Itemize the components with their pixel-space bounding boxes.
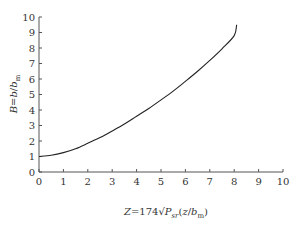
data-series	[39, 25, 237, 157]
y-axis-label: B=b/bm	[8, 74, 22, 114]
y-tick-label: 8	[29, 43, 35, 54]
x-tick-label: 10	[277, 176, 290, 187]
y-tick-label: 3	[29, 120, 35, 131]
x-tick-label: 0	[36, 176, 42, 187]
curve-line	[39, 25, 237, 157]
x-axis-label: Z=174√Psr(z/bm)	[123, 206, 208, 220]
line-chart: 012345678910012345678910 Z=174√Psr(z/bm)…	[0, 0, 302, 230]
y-tick-label: 1	[29, 151, 35, 162]
x-tick-label: 8	[231, 176, 237, 187]
x-tick-label: 4	[133, 176, 139, 187]
y-tick-label: 9	[29, 27, 35, 38]
x-tick-label: 3	[109, 176, 115, 187]
y-tick-label: 4	[29, 105, 35, 116]
x-tick-label: 7	[207, 176, 213, 187]
x-tick-label: 5	[158, 176, 164, 187]
ticks: 012345678910012345678910	[22, 12, 289, 188]
x-tick-label: 2	[85, 176, 91, 187]
y-tick-label: 7	[29, 58, 35, 69]
y-tick-label: 2	[29, 136, 35, 147]
x-tick-label: 1	[60, 176, 66, 187]
y-tick-label: 10	[22, 12, 35, 23]
y-tick-label: 6	[29, 74, 35, 85]
x-tick-label: 9	[255, 176, 261, 187]
y-tick-label: 5	[29, 89, 35, 100]
y-tick-label: 0	[29, 167, 35, 178]
x-tick-label: 6	[182, 176, 188, 187]
